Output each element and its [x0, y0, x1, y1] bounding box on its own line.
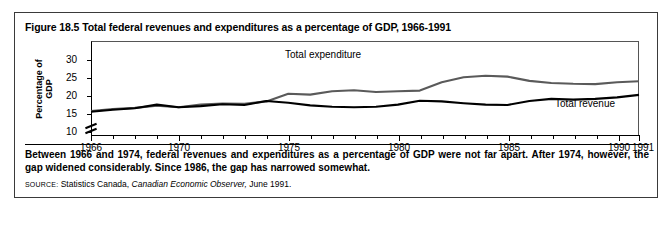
x-tick-mark-1974 — [267, 135, 268, 139]
x-tick-mark-1982 — [443, 135, 444, 139]
source-publication: Canadian Economic Observer, — [132, 179, 247, 189]
x-tick-mark-1988 — [575, 135, 576, 139]
x-tick-mark-1967 — [113, 135, 114, 139]
series-label-total-revenue: Total revenue — [555, 98, 615, 109]
x-tick-mark-1972 — [223, 135, 224, 139]
x-tick-mark-1970 — [179, 135, 180, 141]
x-tick-mark-1987 — [553, 135, 554, 139]
x-tick-mark-1969 — [157, 135, 158, 139]
x-tick-mark-1991 — [639, 135, 640, 141]
x-tick-mark-1968 — [135, 135, 136, 139]
x-tick-mark-1984 — [487, 135, 488, 139]
x-tick-mark-1975 — [289, 135, 290, 141]
page-title: Figure 18.5 Total federal revenues and e… — [25, 21, 451, 33]
x-tick-mark-1980 — [399, 135, 400, 141]
caption-divider — [25, 144, 649, 145]
series-label-total-expenditure: Total expenditure — [285, 49, 361, 60]
figure-box: Figure 18.5 Total federal revenues and e… — [14, 12, 658, 198]
figure-source: SOURCE: Statistics Canada, Canadian Econ… — [25, 179, 649, 190]
x-tick-mark-1977 — [333, 135, 334, 139]
x-tick-mark-1986 — [531, 135, 532, 139]
source-date: June 1991. — [249, 179, 291, 189]
x-tick-mark-1973 — [245, 135, 246, 139]
source-publisher: Statistics Canada, — [61, 179, 130, 189]
figure-title-bar: Figure 18.5 Total federal revenues and e… — [15, 13, 657, 35]
x-tick-mark-1966 — [91, 135, 92, 141]
x-tick-mark-1983 — [465, 135, 466, 139]
chart-plot-region: Percentage of GDP 30 25 20 15 10 Total e… — [15, 35, 659, 143]
x-tick-mark-1989 — [597, 135, 598, 139]
source-prefix: SOURCE: — [25, 181, 58, 188]
x-tick-mark-1979 — [377, 135, 378, 139]
x-tick-mark-1978 — [355, 135, 356, 139]
x-tick-mark-1971 — [201, 135, 202, 139]
x-tick-mark-1981 — [421, 135, 422, 139]
x-tick-mark-1976 — [311, 135, 312, 139]
figure-caption: Between 1966 and 1974, federal revenues … — [25, 149, 649, 174]
x-tick-mark-1985 — [509, 135, 510, 141]
x-tick-mark-1990 — [619, 135, 620, 141]
